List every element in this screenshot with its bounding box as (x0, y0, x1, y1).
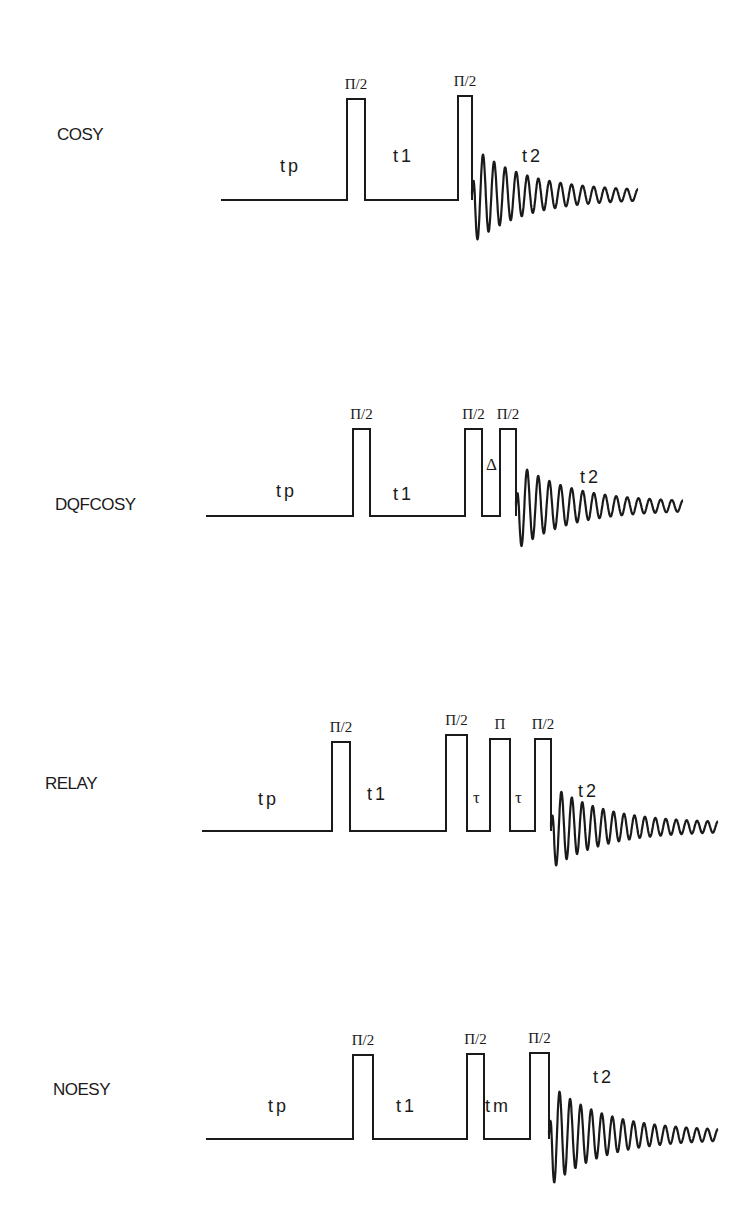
pulse-angle-label: Π/2 (462, 406, 485, 422)
pulse-angle-label: Π/2 (330, 719, 353, 735)
delay-label: tp (280, 156, 301, 176)
pulse-angle-label: Π/2 (350, 406, 373, 422)
delay-label: t1 (393, 146, 414, 166)
delay-label: τ (515, 788, 522, 807)
delay-label: Δ (486, 455, 497, 474)
pulse-trace (202, 735, 551, 831)
delay-label: t1 (393, 484, 414, 504)
delay-label: t1 (367, 784, 388, 804)
delay-label: tp (276, 481, 297, 501)
pulse-trace (206, 429, 516, 516)
sequence-name-label: DQFCOSY (55, 495, 136, 514)
pulse-angle-label: Π/2 (528, 1030, 551, 1046)
pulse-angle-label: Π/2 (352, 1032, 375, 1048)
sequence-cosy: COSYΠ/2Π/2tpt1t2 (57, 73, 638, 239)
fid-signal (551, 792, 718, 865)
fid-signal (472, 155, 638, 240)
delay-label: tp (258, 789, 279, 809)
delay-label: τ (473, 788, 480, 807)
pulse-angle-label: Π/2 (497, 406, 520, 422)
sequence-name-label: COSY (57, 125, 103, 144)
sequence-name-label: RELAY (45, 774, 97, 793)
fid-signal (549, 1092, 718, 1183)
pulse-angle-label: Π/2 (532, 716, 555, 732)
sequence-dqfcosy: DQFCOSYΠ/2Π/2Π/2tpt1Δt2 (55, 406, 683, 546)
sequence-relay: RELAYΠ/2Π/2ΠΠ/2tpt1ττt2 (45, 712, 718, 865)
acquisition-label: t2 (522, 146, 543, 166)
pulse-angle-label: Π/2 (345, 76, 368, 92)
sequence-name-label: NOESY (53, 1080, 110, 1099)
pulse-angle-label: Π/2 (464, 1031, 487, 1047)
acquisition-label: t2 (578, 781, 599, 801)
pulse-angle-label: Π/2 (454, 73, 477, 89)
delay-label: tp (268, 1096, 289, 1116)
pulse-trace (221, 96, 472, 200)
pulse-angle-label: Π (495, 716, 506, 732)
delay-label: tm (485, 1096, 511, 1116)
pulse-sequence-figure: COSYΠ/2Π/2tpt1t2 DQFCOSYΠ/2Π/2Π/2tpt1Δt2… (0, 0, 749, 1210)
sequence-noesy: NOESYΠ/2Π/2Π/2tpt1tmt2 (53, 1030, 718, 1182)
pulse-angle-label: Π/2 (445, 712, 468, 728)
delay-label: t1 (396, 1096, 417, 1116)
acquisition-label: t2 (593, 1067, 614, 1087)
acquisition-label: t2 (580, 467, 601, 487)
